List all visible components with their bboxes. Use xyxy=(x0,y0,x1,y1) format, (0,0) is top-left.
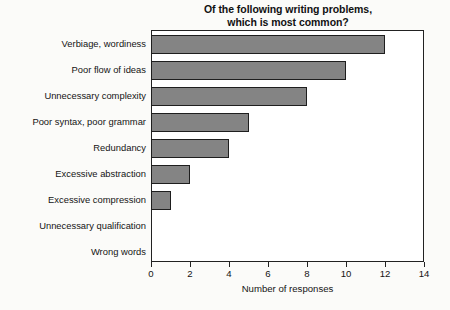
bar xyxy=(151,191,171,210)
category-label: Unnecessary qualification xyxy=(0,213,146,239)
bar xyxy=(151,165,190,184)
category-label: Redundancy xyxy=(0,135,146,161)
x-axis-tick-label: 2 xyxy=(175,268,205,279)
x-axis-tick-label: 14 xyxy=(409,268,439,279)
x-axis-title: Number of responses xyxy=(151,283,424,294)
bar xyxy=(151,113,249,132)
x-axis-tick-label: 6 xyxy=(253,268,283,279)
bar-row xyxy=(151,57,424,83)
bar-row xyxy=(151,213,424,239)
x-axis-tick xyxy=(151,262,152,267)
x-axis-tick-label: 12 xyxy=(370,268,400,279)
chart-title-line-1: Of the following writing problems, xyxy=(151,3,425,16)
bar-chart-figure: Of the following writing problems, which… xyxy=(0,0,450,310)
bars-layer xyxy=(151,30,424,262)
x-axis-tick xyxy=(346,262,347,267)
bar-row xyxy=(151,83,424,109)
chart-title: Of the following writing problems, which… xyxy=(151,3,425,28)
x-axis-tick-label: 0 xyxy=(136,268,166,279)
bar xyxy=(151,87,307,106)
bar-row xyxy=(151,109,424,135)
x-axis-tick-label: 10 xyxy=(331,268,361,279)
category-label: Wrong words xyxy=(0,239,146,265)
category-label: Excessive abstraction xyxy=(0,161,146,187)
x-axis-tick-label: 4 xyxy=(214,268,244,279)
bar-row xyxy=(151,135,424,161)
category-axis-labels: Verbiage, wordiness Poor flow of ideas U… xyxy=(0,30,146,262)
bar-row xyxy=(151,31,424,57)
x-axis-tick-label: 8 xyxy=(292,268,322,279)
x-axis-tick xyxy=(190,262,191,267)
x-axis-tick xyxy=(385,262,386,267)
chart-title-line-2: which is most common? xyxy=(151,16,425,29)
category-label: Excessive compression xyxy=(0,187,146,213)
bar-row xyxy=(151,187,424,213)
bar xyxy=(151,61,346,80)
category-label: Poor flow of ideas xyxy=(0,57,146,83)
x-axis-tick xyxy=(307,262,308,267)
category-label: Unnecessary complexity xyxy=(0,83,146,109)
category-label: Verbiage, wordiness xyxy=(0,31,146,57)
x-axis-tick xyxy=(424,262,425,267)
category-label: Poor syntax, poor grammar xyxy=(0,109,146,135)
x-axis-tick xyxy=(268,262,269,267)
bar xyxy=(151,139,229,158)
bar xyxy=(151,35,385,54)
x-axis-tick xyxy=(229,262,230,267)
bar-row xyxy=(151,161,424,187)
